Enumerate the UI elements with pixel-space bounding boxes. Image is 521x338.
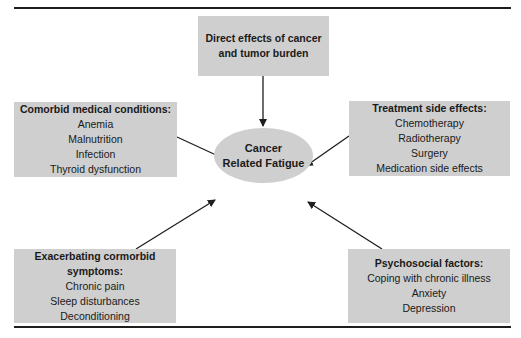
node-exacerbating-item: Chronic pain (66, 279, 125, 294)
node-comorbid-item: Infection (76, 147, 116, 162)
node-exacerbating-symptoms: Exacerbating cormorbid symptoms: Chronic… (14, 249, 176, 323)
node-comorbid-item: Anemia (78, 117, 114, 132)
node-exacerbating-item: Deconditioning (60, 309, 129, 324)
node-direct-effects: Direct effects of cancer and tumor burde… (198, 16, 329, 76)
node-comorbid-item: Thyroid dysfunction (50, 162, 141, 177)
node-psychosocial-item: Depression (402, 301, 455, 316)
node-exacerbating-title-line1: Exacerbating cormorbid (35, 249, 156, 264)
node-exacerbating-item: Sleep disturbances (50, 294, 139, 309)
node-treatment-item: Medication side effects (376, 161, 483, 176)
node-comorbid-item: Malnutrition (68, 132, 122, 147)
node-psychosocial-item: Anxiety (412, 286, 446, 301)
node-treatment-item: Chemotherapy (395, 116, 464, 131)
node-exacerbating-title-line2: symptoms: (67, 264, 123, 279)
node-psychosocial-item: Coping with chronic illness (367, 271, 491, 286)
arrow-psychosocial-to-center (308, 202, 382, 249)
node-treatment-side-effects: Treatment side effects: Chemotherapy Rad… (349, 101, 510, 176)
node-psychosocial-factors: Psychosocial factors: Coping with chroni… (348, 249, 510, 323)
node-comorbid-conditions: Comorbid medical conditions: Anemia Maln… (14, 102, 177, 177)
center-line2: Related Fatigue (223, 156, 305, 171)
node-treatment-item: Radiotherapy (398, 131, 460, 146)
node-direct-title-line2: and tumor burden (219, 46, 309, 61)
arrow-exacerbating-to-center (136, 200, 215, 249)
node-treatment-item: Surgery (411, 146, 448, 161)
node-treatment-title: Treatment side effects: (372, 101, 486, 116)
center-line1: Cancer (245, 141, 282, 156)
node-direct-title-line1: Direct effects of cancer (205, 31, 321, 46)
node-comorbid-title: Comorbid medical conditions: (20, 102, 171, 117)
bottom-rule (14, 326, 511, 328)
node-psychosocial-title: Psychosocial factors: (375, 256, 484, 271)
node-cancer-related-fatigue: Cancer Related Fatigue (214, 128, 313, 183)
